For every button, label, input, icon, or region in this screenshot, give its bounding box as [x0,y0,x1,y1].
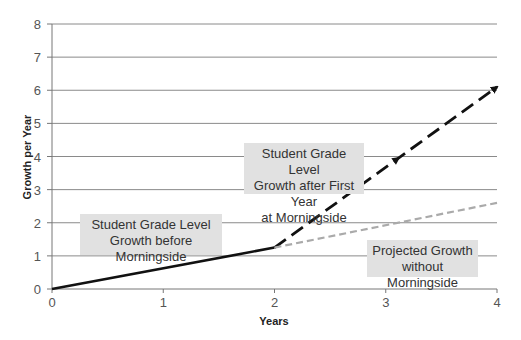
annotation-growth-before: Student Grade Level Growth before Mornin… [80,214,222,255]
x-axis-title: Years [259,315,288,327]
x-tick-label: 1 [160,295,167,310]
y-tick-label: 7 [34,50,41,65]
annotation-text: Growth before Morningside [84,233,218,265]
annotation-text: without Morningside [371,259,474,291]
x-tick-label: 4 [493,295,500,310]
annotation-text: Student Grade Level [248,146,360,178]
x-tick-label: 0 [48,295,55,310]
y-tick-label: 3 [34,183,41,198]
x-tick-label: 3 [382,295,389,310]
annotation-text: at Morningside [248,210,360,226]
annotation-projected-growth: Projected Growth without Morningside [367,240,478,277]
y-tick-label: 4 [34,150,41,165]
x-tick-labels: 01234 [48,295,500,310]
annotation-text: Student Grade Level [84,217,218,233]
annotation-text: Growth after First Year [248,178,360,210]
y-tick-label: 5 [34,116,41,131]
annotation-text: Projected Growth [371,243,474,259]
annotation-growth-after: Student Grade Level Growth after First Y… [244,143,364,194]
y-tick-label: 0 [34,282,41,297]
y-tick-label: 8 [34,17,41,32]
y-tick-label: 2 [34,216,41,231]
y-tick-labels: 012345678 [34,17,41,297]
x-tick-label: 2 [271,295,278,310]
y-tick-label: 6 [34,83,41,98]
y-axis-title: Growth per Year [21,114,33,199]
y-tick-label: 1 [34,249,41,264]
